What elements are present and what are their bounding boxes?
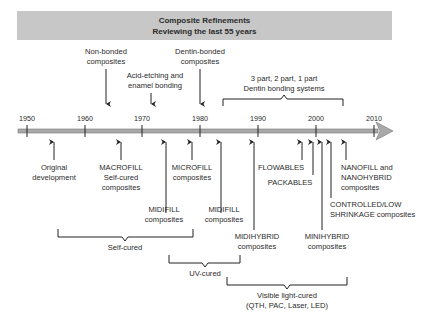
dentin-bonding-bracket (223, 95, 343, 106)
label-acid-etching: Acid-etching andenamel bonding (127, 71, 184, 91)
self-cured-bracket (58, 229, 193, 241)
label-nanofill: NANOFILL andNANOHYBRIDcomposites (341, 163, 393, 193)
label-microfill: MICROFILLcomposites (172, 163, 213, 183)
timeline-axis (18, 122, 393, 140)
label-self-cured: Self-cured (108, 243, 143, 253)
label-packables: PACKABLES (268, 178, 313, 188)
label-midifill-1: MIDIFILLcomposites (145, 205, 183, 225)
label-original: Originaldevelopment (32, 163, 75, 183)
label-dentin-bonded: Dentin-bondedcomposites (175, 47, 225, 67)
label-midihybrid: MIDIHYBRIDcomposites (235, 232, 280, 252)
year-2000: 2000 (308, 114, 324, 123)
year-1960: 1960 (77, 114, 93, 123)
year-1970: 1970 (134, 114, 150, 123)
label-controlled-shrinkage: CONTROLLED/LOWSHRINKAGE composites (330, 200, 415, 220)
label-flowables: FLOWABLES (258, 163, 304, 173)
label-midifill-2: MIDIFILLcomposites (205, 205, 243, 225)
label-macrofill: MACROFILLSelf-curedcomposites (99, 163, 142, 193)
year-1950: 1950 (19, 114, 35, 123)
label-uv-cured: UV-cured (189, 269, 221, 279)
label-dentin-bonding-systems: 3 part, 2 part, 1 partDentin bonding sys… (243, 74, 324, 94)
label-visible-light-cured: Visible light-cured(QTH, PAC, Laser, LED… (246, 291, 328, 311)
year-1980: 1980 (192, 114, 208, 123)
uv-cured-bracket (169, 255, 240, 267)
year-1990: 1990 (250, 114, 266, 123)
year-2010: 2010 (366, 114, 382, 123)
visible-light-bracket (227, 277, 347, 289)
label-minihybrid: MINIHYBRIDcomposites (305, 232, 350, 252)
label-non-bonded: Non-bondedcomposites (85, 47, 127, 67)
